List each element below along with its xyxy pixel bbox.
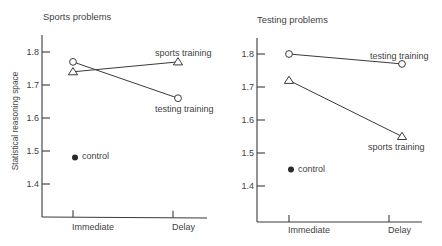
x-category-label: Delay	[172, 222, 196, 232]
open-triangle-marker-icon	[173, 58, 182, 65]
y-tick-label: 1.5	[26, 146, 39, 156]
series-label: sports training	[155, 48, 212, 58]
chart-panel-testing-problems: Testing problems1.81.71.61.51.4Immediate…	[241, 14, 428, 235]
y-tick-label: 1.7	[241, 82, 254, 92]
series-label: control	[298, 164, 325, 174]
y-tick-label: 1.8	[241, 49, 254, 59]
filled-circle-marker-icon	[288, 167, 294, 173]
chart-title: Testing problems	[257, 14, 328, 25]
y-tick-label: 1.6	[241, 115, 254, 125]
chart-panel-sports-problems: Sports problemsStatistical reasoning spa…	[10, 11, 214, 232]
filled-circle-marker-icon	[72, 155, 78, 161]
series-testing-training: testing training	[70, 59, 214, 115]
x-category-label: Delay	[388, 225, 412, 235]
y-tick-label: 1.6	[26, 113, 39, 123]
series-label: testing training	[155, 104, 214, 114]
series-control: control	[288, 164, 325, 174]
series-label: sports training	[368, 142, 425, 152]
open-circle-marker-icon	[175, 95, 182, 102]
series-control: control	[72, 151, 109, 161]
open-triangle-marker-icon	[284, 76, 293, 83]
series-testing-training: testing training	[286, 51, 429, 68]
x-category-label: Immediate	[288, 225, 330, 235]
x-category-label: Immediate	[72, 222, 114, 232]
y-tick-label: 1.4	[241, 181, 254, 191]
chart-canvas: Sports problemsStatistical reasoning spa…	[0, 0, 442, 246]
figure: Sports problemsStatistical reasoning spa…	[0, 0, 442, 246]
y-tick-label: 1.5	[241, 148, 254, 158]
open-circle-marker-icon	[286, 51, 293, 58]
series-label: testing training	[370, 51, 429, 61]
y-tick-label: 1.8	[26, 47, 39, 57]
series-sports-training: sports training	[284, 76, 424, 152]
series-label: control	[82, 151, 109, 161]
open-triangle-marker-icon	[397, 132, 406, 139]
chart-title: Sports problems	[43, 11, 112, 22]
y-tick-label: 1.7	[26, 80, 39, 90]
series-line	[289, 80, 402, 136]
y-tick-label: 1.4	[26, 179, 39, 189]
open-circle-marker-icon	[399, 61, 406, 68]
open-circle-marker-icon	[70, 59, 77, 66]
series-sports-training: sports training	[68, 48, 211, 75]
x-axis	[42, 217, 207, 218]
y-axis-label: Statistical reasoning space	[10, 71, 20, 170]
